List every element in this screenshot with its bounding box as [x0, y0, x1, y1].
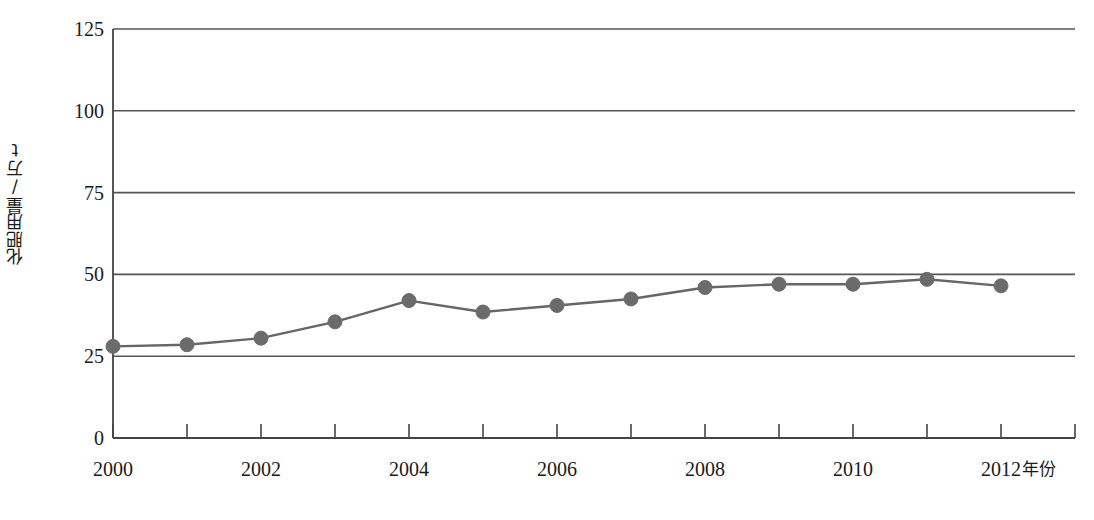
data-point-markers	[106, 272, 1008, 353]
data-point-2009	[772, 277, 786, 291]
data-point-2007	[624, 292, 638, 306]
data-point-2006	[550, 298, 564, 312]
axis-lines	[113, 29, 1075, 438]
data-point-2010	[846, 277, 860, 291]
x-axis-ticks	[113, 424, 1075, 438]
data-point-2003	[328, 315, 342, 329]
data-point-2000	[106, 339, 120, 353]
plot-area	[0, 0, 1094, 520]
gridlines	[113, 29, 1075, 356]
data-point-2004	[402, 294, 416, 308]
data-point-2012	[994, 279, 1008, 293]
line-chart: 化肥用量/万t 0255075100125 200020022004200620…	[0, 0, 1094, 520]
data-point-2002	[254, 331, 268, 345]
data-point-2008	[698, 280, 712, 294]
data-point-2011	[920, 272, 934, 286]
data-point-2005	[476, 305, 490, 319]
data-point-2001	[180, 338, 194, 352]
